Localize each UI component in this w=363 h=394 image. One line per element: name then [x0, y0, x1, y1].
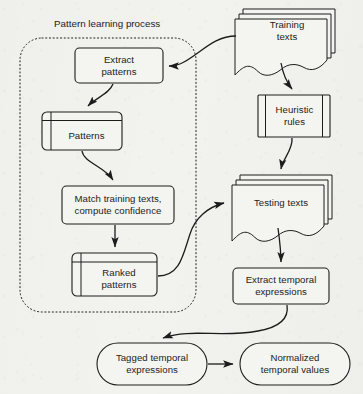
edge-patterns-to-match [82, 151, 113, 180]
node-training-texts[interactable] [235, 9, 335, 75]
edge-heuristic-to-testing [281, 138, 292, 169]
node-patterns[interactable] [42, 112, 122, 150]
node-ranked-patterns[interactable] [72, 253, 157, 296]
node-tagged-temporal-expressions[interactable] [97, 343, 207, 385]
node-heuristic-rules[interactable] [258, 95, 330, 137]
flowchart-vector-layer [0, 0, 363, 394]
node-normalized-temporal-values[interactable] [240, 343, 350, 385]
node-match-training-texts[interactable] [62, 186, 174, 224]
node-extract-temporal-expressions[interactable] [233, 268, 329, 304]
group-title-pattern-learning-process: Pattern learning process [54, 18, 160, 30]
node-extract-patterns[interactable] [75, 48, 163, 83]
flowchart-canvas: Pattern learning process Training texts … [0, 0, 363, 394]
edge-extract-to-patterns [88, 84, 113, 106]
edge-extracttemp-to-tagged [163, 305, 287, 338]
node-testing-texts[interactable] [232, 175, 332, 241]
edge-training-to-extract [169, 36, 236, 66]
